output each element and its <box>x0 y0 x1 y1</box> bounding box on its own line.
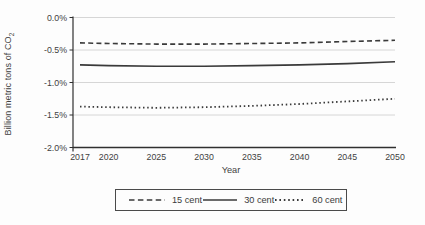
y-axis-title-subscript: 2 <box>8 33 15 37</box>
dotted-line-sample-icon <box>274 197 306 203</box>
y-tick-label: 0.0% <box>47 13 67 23</box>
x-tick-label: 2025 <box>147 152 167 162</box>
legend-label: 30 cent <box>244 195 274 205</box>
co2-reduction-chart: 0.0%-0.5%-1.0%-1.5%-2.0%2017202020252030… <box>0 0 425 185</box>
x-tick-label: 2050 <box>385 152 405 162</box>
legend-item-15-cent: 15 cent <box>128 195 202 205</box>
x-tick-label: 2035 <box>242 152 262 162</box>
legend-label: 60 cent <box>312 195 342 205</box>
y-axis-title: Billion metric tons of CO2 <box>3 33 15 136</box>
y-tick-label: -0.5% <box>44 45 67 55</box>
legend-item-30-cent: 30 cent <box>202 195 274 205</box>
legend-item-60-cent: 60 cent <box>274 195 342 205</box>
y-axis-title-text: Billion metric tons of CO <box>3 36 13 135</box>
legend: 15 cent 30 cent 60 cent <box>115 189 347 211</box>
x-axis-title: Year <box>222 165 241 175</box>
series-line-30-cent <box>80 62 395 67</box>
dashed-line-sample-icon <box>128 197 166 203</box>
co2-reduction-figure: 0.0%-0.5%-1.0%-1.5%-2.0%2017202020252030… <box>0 0 425 225</box>
series-line-60-cent <box>80 99 395 108</box>
y-tick-label: -2.0% <box>44 143 67 153</box>
y-tick-label: -1.5% <box>44 110 67 120</box>
x-tick-label: 2040 <box>290 152 310 162</box>
legend-label: 15 cent <box>172 195 202 205</box>
x-tick-label: 2017 <box>70 152 90 162</box>
solid-line-sample-icon <box>202 197 238 203</box>
x-tick-label: 2045 <box>337 152 357 162</box>
series-line-15-cent <box>80 40 395 44</box>
y-tick-label: -1.0% <box>44 78 67 88</box>
x-tick-label: 2030 <box>194 152 214 162</box>
x-tick-label: 2020 <box>99 152 119 162</box>
